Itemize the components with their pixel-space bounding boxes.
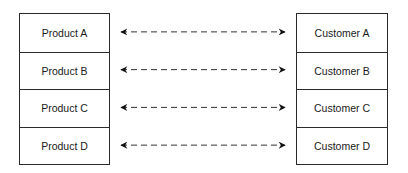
connection-arrows (0, 0, 408, 173)
